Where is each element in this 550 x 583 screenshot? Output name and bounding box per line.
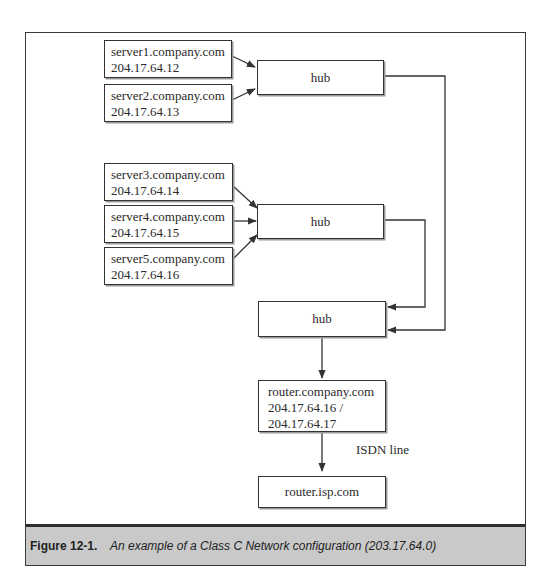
server2-hostname: server2.company.com [111,88,225,104]
server5-hostname: server5.company.com [111,251,226,267]
hub1-label: hub [311,70,331,86]
server1-hostname: server1.company.com [111,44,225,60]
server4-ip: 204.17.64.15 [111,225,226,241]
router-company-node: router.company.com 204.17.64.16 / 204.17… [258,380,386,432]
server2-node: server2.company.com 204.17.64.13 [104,84,232,122]
hub1-node: hub [257,60,384,95]
server4-hostname: server4.company.com [111,209,226,225]
isdn-line-label: ISDN line [356,442,409,458]
hub2-label: hub [311,214,331,230]
hub3-label: hub [312,311,332,327]
server3-node: server3.company.com 204.17.64.14 [104,163,233,201]
server3-hostname: server3.company.com [111,167,226,183]
hub3-node: hub [258,301,386,337]
router-isp-label: router.isp.com [285,484,359,500]
server1-node: server1.company.com 204.17.64.12 [104,40,232,78]
figure-number: Figure 12-1. [30,539,110,553]
server2-ip: 204.17.64.13 [111,104,225,120]
router-company-ip-1: 204.17.64.16 / [268,400,376,416]
router-company-ip-2: 204.17.64.17 [268,416,376,432]
figure-caption: Figure 12-1. An example of a Class C Net… [25,524,526,566]
figure-caption-text: An example of a Class C Network configur… [110,539,436,553]
server1-ip: 204.17.64.12 [111,60,225,76]
router-company-hostname: router.company.com [268,384,376,400]
server3-ip: 204.17.64.14 [111,183,226,199]
server5-ip: 204.17.64.16 [111,267,226,283]
router-isp-node: router.isp.com [258,476,386,508]
hub2-node: hub [257,204,384,239]
server4-node: server4.company.com 204.17.64.15 [104,205,233,243]
server5-node: server5.company.com 204.17.64.16 [104,247,233,285]
